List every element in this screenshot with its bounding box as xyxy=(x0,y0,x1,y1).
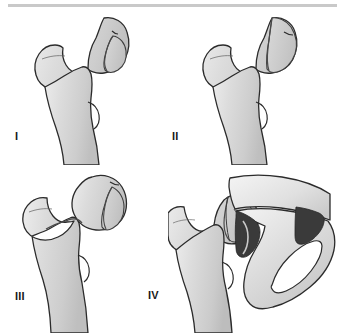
top-horizontal-rule xyxy=(8,4,337,7)
panel-pipkin-type-1 xyxy=(0,10,168,165)
panel-pipkin-type-2 xyxy=(168,10,337,165)
panel-label-2: II xyxy=(172,131,179,142)
panel-pipkin-type-3 xyxy=(0,165,168,333)
panel-pipkin-type-4 xyxy=(168,165,337,333)
panel-label-3: III xyxy=(15,291,25,302)
figure-root: I II xyxy=(0,0,337,333)
panel-label-1: I xyxy=(15,131,18,142)
panel-label-4: IV xyxy=(148,290,159,301)
